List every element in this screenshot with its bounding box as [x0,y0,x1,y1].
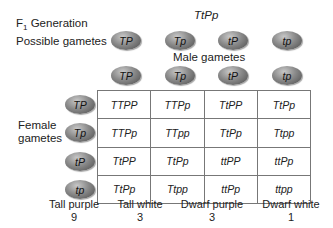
punnett-row: TTPP TTPp TtPP TtPp [98,91,311,119]
phenotype-dwarf-purple: Dwarf purple3 [177,198,247,224]
female-gamete-oval: Tp [65,123,95,142]
punnett-cell: TtPp [257,91,310,119]
punnett-cell: Ttpp [257,119,310,147]
punnett-cell: TtPP [98,147,151,175]
phenotype-dwarf-white: Dwarf white1 [258,198,324,224]
possible-gamete-oval: Tp [165,31,195,50]
phenotype-tall-white: Tall white3 [110,198,170,224]
punnett-cell: TtPp [204,119,257,147]
punnett-cell: TtPP [204,91,257,119]
male-gametes-label: Male gametes [173,51,245,63]
punnett-cell: TTPp [151,91,204,119]
possible-gametes-label: Possible gametes [16,35,107,47]
possible-gamete-oval: tP [218,31,248,50]
punnett-square: TTPP TTPp TtPP TtPp TTPp TTpp TtPp Ttpp … [97,90,311,204]
punnett-cell: TTpp [151,119,204,147]
punnett-cell: TTPp [98,119,151,147]
male-gamete-oval: tp [272,66,302,85]
punnett-row: TtPP TtPp ttPP ttPp [98,147,311,175]
possible-gamete-oval: tp [272,31,302,50]
punnett-cell: ttPp [257,147,310,175]
f1-genotype: TtPp [194,9,218,21]
punnett-cell: TTPP [98,91,151,119]
female-gamete-oval: tp [65,180,95,199]
female-gamete-oval: TP [65,95,95,114]
possible-gamete-oval: TP [111,31,141,50]
male-gamete-oval: Tp [165,66,195,85]
phenotype-tall-purple: Tall purple9 [44,198,104,224]
punnett-cell: ttPP [204,147,257,175]
punnett-cell: TtPp [151,147,204,175]
female-gamete-oval: tP [65,152,95,171]
female-gametes-label: Female gametes [18,119,62,145]
punnett-row: TTPp TTpp TtPp Ttpp [98,119,311,147]
f1-generation-label: F1 Generation [16,17,88,32]
male-gamete-oval: tP [218,66,248,85]
male-gamete-oval: TP [111,66,141,85]
